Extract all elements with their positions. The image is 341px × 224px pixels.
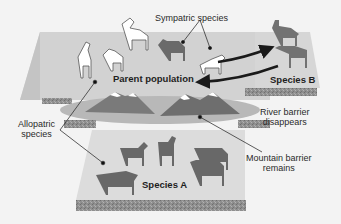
allopatric-line1: Allopatric	[18, 119, 55, 129]
allopatric-line2: species	[18, 129, 55, 139]
river-barrier-strip	[245, 88, 317, 96]
barrier-strip-left	[42, 98, 72, 104]
label-river-barrier: River barrier disappears	[260, 107, 310, 127]
bottom-strip	[76, 200, 246, 211]
river-barrier-line2: disappears	[260, 117, 310, 127]
label-species-b: Species B	[270, 75, 315, 85]
label-allopatric-species: Allopatric species	[18, 119, 55, 139]
parent-population-platform	[20, 32, 270, 104]
river-barrier-line1: River barrier	[260, 107, 310, 117]
label-sympatric-species: Sympatric species	[155, 13, 228, 23]
barrier-strip-left2	[64, 120, 96, 128]
mountain-line1: Mountain barrier	[246, 153, 312, 163]
label-mountain-barrier: Mountain barrier remains	[246, 153, 312, 173]
mountain-line2: remains	[246, 163, 312, 173]
label-species-a: Species A	[142, 180, 187, 190]
label-parent-population: Parent population	[113, 74, 194, 84]
